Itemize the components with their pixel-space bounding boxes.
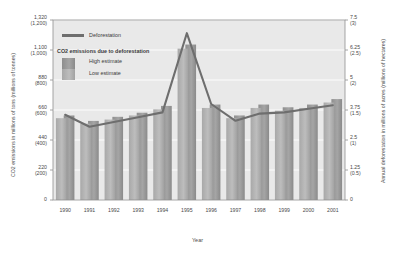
legend-heading-co2: CO2 emissions due to deforestation xyxy=(57,48,149,54)
low-estimate-swatch xyxy=(62,69,75,80)
legend-label-low-estimate: Low estimate xyxy=(89,70,121,76)
bar-low-estimate xyxy=(56,118,67,200)
bar-low-estimate xyxy=(226,118,237,200)
deforestation-line-swatch xyxy=(62,34,84,37)
bar-low-estimate xyxy=(202,108,213,200)
bar-low-estimate xyxy=(299,108,310,200)
legend-label-deforestation: Deforestation xyxy=(89,32,121,38)
bar-low-estimate xyxy=(153,109,164,200)
bar-low-estimate xyxy=(251,108,262,200)
legend-label-high-estimate: High estimate xyxy=(89,58,122,64)
bar-low-estimate xyxy=(178,49,189,200)
bar-low-estimate xyxy=(275,111,286,200)
plot-area xyxy=(0,0,395,255)
bar-low-estimate xyxy=(324,103,335,201)
deforestation-emissions-chart: CO2 emissions in millions of tons (milli… xyxy=(0,0,395,255)
bar-low-estimate xyxy=(80,124,91,200)
bar-low-estimate xyxy=(105,120,116,200)
bar-low-estimate xyxy=(129,115,140,200)
